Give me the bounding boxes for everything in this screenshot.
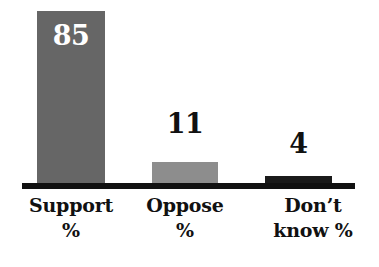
plot-area: 85 11 4 [0,0,379,190]
category-axis-labels: Support % Oppose % Don’t know % [0,193,379,267]
value-label-oppose: 11 [152,110,218,137]
category-label-support: Support % [6,193,136,243]
category-label-oppose-line2: % [125,218,245,243]
value-label-support: 85 [37,22,105,49]
category-label-dont-know-line2: know % [250,218,376,243]
category-label-support-line2: % [6,218,136,243]
bar-chart: 85 11 4 Support % Oppose % Don’t know % [0,0,379,267]
category-label-oppose: Oppose % [125,193,245,243]
category-label-oppose-line1: Oppose [125,193,245,218]
axis-baseline [22,183,355,189]
category-label-support-line1: Support [6,193,136,218]
bar-oppose [152,162,218,184]
category-label-dont-know-line1: Don’t [250,193,376,218]
value-label-dont-know: 4 [265,130,332,157]
category-label-dont-know: Don’t know % [250,193,376,243]
